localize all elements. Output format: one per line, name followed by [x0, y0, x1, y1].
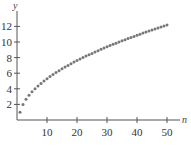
- data-point: [76, 59, 79, 62]
- y-tick-label: 2: [7, 98, 13, 110]
- data-point: [64, 66, 67, 69]
- x-axis-label: n: [182, 114, 187, 125]
- x-tick-label: 20: [72, 126, 84, 138]
- data-point: [19, 111, 22, 114]
- data-point: [112, 43, 115, 46]
- data-point: [97, 49, 100, 52]
- data-point: [67, 64, 70, 67]
- scatter-chart: 246810121020304050 y n: [0, 0, 191, 148]
- data-points: [19, 24, 169, 114]
- data-point: [70, 62, 73, 65]
- y-tick-label: 6: [7, 67, 13, 79]
- data-point: [58, 69, 61, 72]
- x-tick-label: 10: [42, 126, 54, 138]
- x-tick-label: 30: [102, 126, 114, 138]
- data-point: [37, 84, 40, 87]
- data-point: [85, 55, 88, 58]
- data-point: [103, 47, 106, 50]
- data-point: [124, 38, 127, 41]
- data-point: [148, 30, 151, 33]
- data-point: [100, 48, 103, 51]
- data-point: [139, 33, 142, 36]
- data-point: [163, 25, 166, 28]
- data-point: [34, 87, 37, 90]
- data-point: [136, 34, 139, 37]
- data-point: [118, 41, 121, 44]
- data-point: [40, 82, 43, 85]
- data-point: [79, 58, 82, 61]
- data-point: [133, 35, 136, 38]
- y-tick-label: 8: [7, 52, 13, 64]
- data-point: [94, 50, 97, 53]
- data-point: [91, 52, 94, 55]
- data-point: [25, 98, 28, 101]
- y-axis-label: y: [12, 0, 18, 11]
- data-point: [52, 73, 55, 76]
- data-point: [46, 77, 49, 80]
- data-point: [166, 24, 169, 27]
- data-point: [43, 80, 46, 83]
- data-point: [61, 67, 64, 70]
- data-point: [55, 71, 58, 74]
- data-point: [154, 28, 157, 31]
- data-point: [88, 53, 91, 56]
- y-tick-label: 10: [1, 36, 13, 48]
- x-tick-label: 50: [162, 126, 174, 138]
- data-point: [106, 45, 109, 48]
- data-point: [160, 26, 163, 29]
- data-point: [28, 94, 31, 97]
- data-point: [73, 61, 76, 64]
- y-tick-label: 4: [7, 83, 13, 95]
- data-point: [22, 103, 25, 106]
- y-tick-label: 12: [1, 20, 12, 32]
- x-tick-label: 40: [132, 126, 144, 138]
- data-point: [109, 44, 112, 47]
- data-point: [121, 39, 124, 42]
- data-point: [49, 75, 52, 78]
- data-point: [115, 42, 118, 45]
- data-point: [142, 32, 145, 35]
- data-point: [151, 29, 154, 32]
- data-point: [145, 31, 148, 34]
- data-point: [31, 90, 34, 93]
- data-point: [157, 27, 160, 30]
- data-point: [82, 56, 85, 59]
- data-point: [127, 37, 130, 40]
- data-point: [130, 36, 133, 39]
